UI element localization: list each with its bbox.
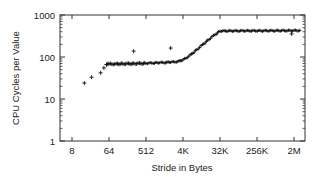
x-tick-label: 2M	[287, 145, 300, 156]
plus-marker	[132, 49, 136, 53]
plus-marker	[90, 75, 94, 79]
y-tick-label: 1	[50, 136, 55, 147]
y-tick-label: 1000	[34, 10, 55, 21]
plus-marker	[82, 81, 86, 85]
x-axis-label: Stride in Bytes	[151, 162, 212, 173]
x-axis-ticks: 8645124K32K256K2M	[69, 15, 300, 156]
x-tick-label: 8	[69, 145, 74, 156]
y-tick-label: 100	[39, 52, 55, 63]
plus-marker	[102, 66, 106, 70]
chart-svg: 8645124K32K256K2M 1101001000 Stride in B…	[0, 0, 319, 177]
chart-container: 8645124K32K256K2M 1101001000 Stride in B…	[0, 0, 319, 177]
x-tick-label: 4K	[177, 145, 189, 156]
x-tick-label: 512	[138, 145, 154, 156]
x-tick-label: 64	[104, 145, 115, 156]
y-tick-label: 10	[44, 94, 55, 105]
plus-marker	[169, 46, 173, 50]
y-axis-label: CPU Cycles per Value	[10, 31, 21, 125]
data-points	[82, 29, 301, 85]
plot-frame	[60, 15, 305, 141]
x-tick-label: 32K	[212, 145, 230, 156]
x-tick-label: 256K	[246, 145, 269, 156]
plus-marker	[99, 71, 103, 75]
plot-border	[60, 15, 305, 141]
